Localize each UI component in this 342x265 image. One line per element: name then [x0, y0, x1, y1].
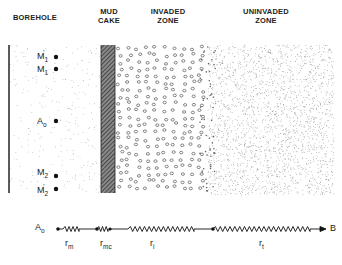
label-rm: rm: [65, 238, 73, 250]
resistor-rm: [63, 227, 79, 232]
mud-cake-zone: [101, 45, 115, 193]
node-borehole-mudcake: [95, 227, 99, 231]
label-rt: rt: [259, 238, 264, 250]
electrode-m2-dot: [54, 174, 58, 178]
electrode-m1-prime-dot: [54, 55, 58, 59]
label-m1: M1: [37, 64, 48, 76]
node-a0: [56, 227, 60, 231]
arrow-head-icon: [320, 227, 326, 232]
circuit-label-a0: Ao: [35, 222, 45, 234]
electrode-a0-dot: [54, 119, 58, 123]
electrode-m1-dot: [54, 67, 58, 71]
invaded-zone: [116, 45, 216, 192]
circuit-label-b: B: [330, 223, 336, 233]
label-m1-prime: M1': [37, 49, 44, 63]
electrode-m2-prime-dot: [54, 187, 58, 191]
borehole-zone: [10, 45, 101, 193]
node-invaded-uninvaded: [211, 227, 215, 231]
label-m2-prime: M2': [37, 183, 44, 197]
label-ri: ri: [150, 238, 154, 250]
label-m2: M2: [37, 167, 48, 179]
uninvaded-zone: [208, 45, 335, 196]
label-a0: Ao: [37, 116, 47, 128]
resistor-ri: [128, 227, 194, 232]
formation-diagram: [0, 0, 342, 265]
label-rmc: rmc: [100, 238, 112, 250]
resistor-rt: [213, 227, 310, 232]
node-mudcake-invaded: [108, 227, 111, 230]
